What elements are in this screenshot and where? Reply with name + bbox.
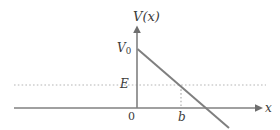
- potential-energy-diagram: V(x) V0 E 0 b x: [0, 0, 280, 130]
- energy-level-label: E: [120, 78, 129, 90]
- origin-label: 0: [128, 111, 135, 122]
- x-axis-label: x: [265, 102, 272, 114]
- v-axis-arrowhead-icon: [133, 26, 141, 34]
- v-zero-label-subscript: 0: [126, 46, 132, 56]
- turning-point-label: b: [178, 111, 186, 123]
- v-zero-label-main: V: [117, 41, 126, 55]
- v-zero-label: V0: [117, 42, 131, 56]
- v-axis-label: V(x): [133, 10, 160, 23]
- x-axis-arrowhead-icon: [255, 104, 263, 112]
